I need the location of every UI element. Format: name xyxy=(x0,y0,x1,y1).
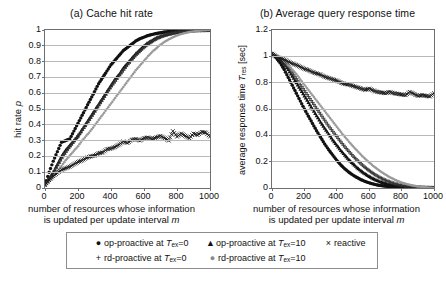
y-tick-label: 0.4 xyxy=(28,119,41,128)
y-tick-mark xyxy=(42,156,45,157)
y-tick-mark xyxy=(42,140,45,141)
gridline xyxy=(272,109,434,110)
data-point xyxy=(57,147,60,150)
x-tick-label: 400 xyxy=(102,192,117,201)
x-tick-label: 600 xyxy=(135,192,150,201)
y-tick-mark xyxy=(42,45,45,46)
y-tick-label: 0.2 xyxy=(28,151,41,160)
x-tick-label: 200 xyxy=(69,192,84,201)
series-filled-triangle xyxy=(272,52,434,188)
gridline xyxy=(45,156,210,157)
y-tick-label: 0.3 xyxy=(28,135,41,144)
gridline xyxy=(45,77,210,78)
y-tick-mark xyxy=(269,109,272,110)
legend-label-rd-proactive-tex0: rd-proactive at Tex=0 xyxy=(104,253,187,263)
y-tick-label: 0.6 xyxy=(255,104,268,113)
x-tick-label: 800 xyxy=(168,192,183,201)
chart-b-y-tick-labels: 00.20.40.60.811.2 xyxy=(241,29,268,189)
x-tick-label: 1000 xyxy=(423,192,443,201)
chart-a-plot-area xyxy=(44,29,211,189)
plus-marker-icon: + xyxy=(93,250,104,266)
filled-circle-marker-icon: ● xyxy=(93,239,104,248)
gridline xyxy=(272,161,434,162)
y-tick-mark xyxy=(42,124,45,125)
legend-item-reactive: ×reactive xyxy=(323,235,366,251)
y-tick-mark xyxy=(42,77,45,78)
chart-a-x-caption-line2: is updated per update interval m xyxy=(0,214,223,226)
gridline xyxy=(45,109,210,110)
series-plus xyxy=(272,52,434,188)
legend-label-reactive: reactive xyxy=(334,238,366,248)
y-tick-label: 1 xyxy=(36,25,41,34)
data-point xyxy=(56,150,59,153)
chart-a-y-tick-labels: 00.10.20.30.40.50.60.70.80.91 xyxy=(14,29,41,189)
x-tick-label: 1000 xyxy=(199,192,219,201)
chart-a-title: (a) Cache hit rate xyxy=(0,7,223,19)
series-filled-circle xyxy=(272,52,434,188)
y-tick-label: 1.2 xyxy=(255,25,268,34)
legend-row-2: +rd-proactive at Tex=0 ●rd-proactive at … xyxy=(67,250,377,266)
data-point xyxy=(49,167,52,170)
y-tick-mark xyxy=(42,109,45,110)
gridline xyxy=(45,124,210,125)
gridline xyxy=(45,172,210,173)
cross-x-marker-icon: × xyxy=(323,235,334,251)
chart-b-title: (b) Average query response time xyxy=(223,7,446,19)
y-tick-mark xyxy=(42,61,45,62)
legend-label-op-proactive-tex0: op-proactive at Tex=0 xyxy=(104,238,189,248)
data-point xyxy=(58,144,61,147)
y-tick-label: 0 xyxy=(36,183,41,192)
legend-label-rd-proactive-tex10: rd-proactive at Tex=10 xyxy=(218,253,306,263)
gridline xyxy=(45,140,210,141)
gridline xyxy=(45,45,210,46)
y-tick-mark xyxy=(269,56,272,57)
series-small-dot xyxy=(272,52,434,188)
y-tick-mark xyxy=(269,30,272,31)
figure-root: (a) Cache hit rate hit rate p 00.10.20.3… xyxy=(0,0,446,284)
x-tick-label: 600 xyxy=(361,192,376,201)
chart-b-x-caption-line2: is updated per update interval m xyxy=(223,214,446,226)
y-tick-label: 0.8 xyxy=(28,56,41,65)
y-tick-mark xyxy=(42,30,45,31)
filled-triangle-marker-icon: ▲ xyxy=(205,235,216,251)
y-tick-label: 0.8 xyxy=(255,77,268,86)
data-point xyxy=(432,91,434,95)
data-point xyxy=(50,163,53,166)
y-tick-label: 0.6 xyxy=(28,88,41,97)
gridline xyxy=(272,56,434,57)
chart-panel-b: (b) Average query response time average … xyxy=(223,0,446,224)
chart-panel-a: (a) Cache hit rate hit rate p 00.10.20.3… xyxy=(0,0,223,224)
data-point xyxy=(52,159,55,162)
gridline xyxy=(45,61,210,62)
x-tick-label: 0 xyxy=(268,192,273,201)
y-tick-label: 0.2 xyxy=(255,156,268,165)
legend-label-op-proactive-tex10: op-proactive at Tex=10 xyxy=(216,238,306,248)
y-tick-label: 0 xyxy=(263,183,268,192)
y-tick-mark xyxy=(269,82,272,83)
legend-item-rd-proactive-tex10: ●rd-proactive at Tex=10 xyxy=(207,250,306,268)
legend-item-rd-proactive-tex0: +rd-proactive at Tex=0 xyxy=(93,250,187,268)
gridline xyxy=(272,135,434,136)
y-tick-mark xyxy=(42,93,45,94)
y-tick-label: 0.1 xyxy=(28,167,41,176)
legend-row-1: ●op-proactive at Tex=0 ▲op-proactive at … xyxy=(67,235,377,251)
gridline xyxy=(45,93,210,94)
x-tick-label: 0 xyxy=(41,192,46,201)
figure-legend: ●op-proactive at Tex=0 ▲op-proactive at … xyxy=(66,232,378,269)
small-dot-marker-icon: ● xyxy=(207,254,218,263)
y-tick-label: 1 xyxy=(263,51,268,60)
y-tick-mark xyxy=(269,161,272,162)
y-tick-label: 0.4 xyxy=(255,130,268,139)
y-tick-mark xyxy=(42,172,45,173)
y-tick-label: 0.9 xyxy=(28,40,41,49)
x-tick-label: 200 xyxy=(296,192,311,201)
chart-b-plot-area xyxy=(271,29,435,189)
y-tick-label: 0.5 xyxy=(28,104,41,113)
y-tick-mark xyxy=(269,135,272,136)
x-tick-label: 400 xyxy=(328,192,343,201)
y-tick-label: 0.7 xyxy=(28,72,41,81)
gridline xyxy=(272,82,434,83)
x-tick-label: 800 xyxy=(393,192,408,201)
data-point xyxy=(208,135,210,139)
